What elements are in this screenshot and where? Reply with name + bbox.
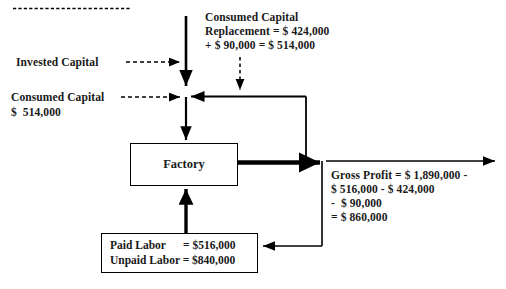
label-replacement-line2: Replacement = $ 424,000 [205,25,329,38]
node-factory-label: Factory [130,157,238,172]
label-replacement-line1: Consumed Capital [205,11,298,24]
label-consumed-capital-line2: $ 514,000 [11,106,61,119]
node-labor-paid-label: Paid Labor = $516,000 [110,238,236,253]
label-gross-profit-line1: Gross Profit = $ 1,890,000 - [331,169,467,182]
label-gross-profit-line3: - $ 90,000 [331,197,382,210]
node-labor-unpaid-label: Unpaid Labor = $840,000 [110,253,235,268]
label-invested-capital: Invested Capital [16,56,98,69]
label-gross-profit-line4: = $ 860,000 [331,211,388,224]
label-replacement-line3: + $ 90,000 = $ 514,000 [205,39,315,52]
label-consumed-capital-line1: Consumed Capital [11,91,104,104]
label-gross-profit-line2: $ 516,000 - $ 424,000 [331,183,435,196]
diagram-canvas: Factory Paid Labor = $516,000 Unpaid Lab… [0,0,506,289]
